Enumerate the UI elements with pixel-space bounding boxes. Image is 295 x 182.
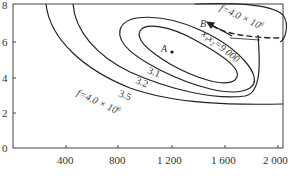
y-tick-label: 6: [2, 36, 8, 48]
x-tick-label: 2 000: [263, 154, 288, 166]
y-tick-label: 2: [2, 107, 8, 119]
contour-label-f-lower: f=4.0 × 106: [75, 87, 122, 117]
point-a-marker: [170, 50, 173, 53]
y-tick-label: 4: [2, 72, 8, 84]
x-tick-label: 1 600: [211, 154, 236, 166]
y-tick-label: 0: [2, 142, 8, 154]
y-tick-label: 8: [2, 0, 8, 11]
x-tick-label: 400: [57, 154, 74, 166]
contour-chart: 0 2 4 6 8 400 800 1 200 1 600 2 000 A B …: [0, 0, 295, 182]
contour-label-3-1: 3.1: [146, 65, 162, 80]
plot-frame: [13, 4, 283, 148]
x-tick-label: 1 200: [157, 154, 182, 166]
contour-label-3-5: 3.5: [117, 88, 133, 103]
point-b-label: B: [200, 18, 206, 29]
contour-label-3-2: 3.2: [134, 75, 150, 90]
constraint-curve: [212, 26, 283, 38]
x-tick-label: 800: [109, 154, 126, 166]
point-a-label: A: [160, 43, 168, 54]
